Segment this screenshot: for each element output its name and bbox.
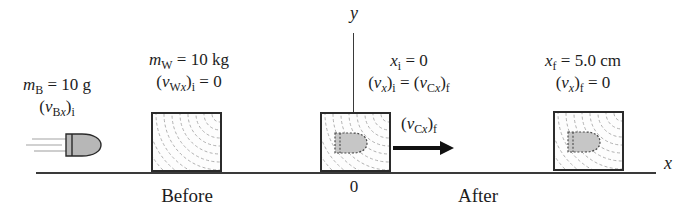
v-initial-equation-label: (vx)i = (vCx)f [350,73,468,98]
wood-grain-icon [322,114,389,170]
block-velocity-label: (vWx)i = 0 [134,72,244,97]
bullet-velocity-label: (vBx)i [6,97,108,122]
physics-figure: x y 0 mB = 10 g (vBx)i mW = 10 kg (vWx)i… [0,0,685,219]
y-axis-label: y [344,3,364,23]
v-final-label: (vx)f = 0 [527,73,639,98]
wood-grain-icon [153,114,220,170]
arrow-velocity-label: (vCx)f [390,114,448,139]
origin-label: 0 [344,177,364,197]
wood-grain-icon [555,113,622,169]
x-axis-line [36,172,656,174]
bullet-icon [66,134,101,156]
bullet [24,130,106,160]
embedded-bullet-icon [568,132,600,152]
embedded-bullet-icon [335,133,367,153]
after-caption: After [438,186,518,206]
x-axis-label: x [658,153,678,173]
wood-block-final [553,111,624,171]
speed-lines-icon [26,139,68,151]
wood-block-before [151,112,222,172]
wood-block-combined [320,112,391,172]
velocity-arrow-icon [392,140,456,156]
before-caption: Before [147,186,227,206]
